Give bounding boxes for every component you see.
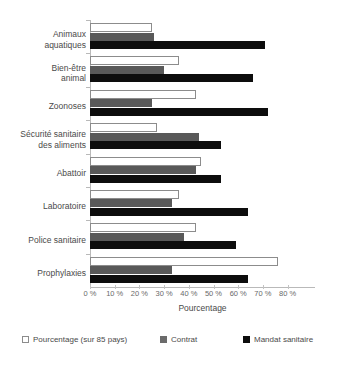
category-tick-mark <box>86 220 90 221</box>
x-axis-tick-labels: 0 %10 %20 %30 %40 %50 %60 %70 %80 % <box>90 289 337 303</box>
category-label: Zoonoses <box>0 101 86 112</box>
category-tick-mark <box>86 53 90 54</box>
legend-item: Contrat <box>160 335 197 344</box>
bar-white <box>90 257 278 266</box>
legend-swatch-gray-icon <box>160 336 167 343</box>
legend-item: Mandat sanitaire <box>243 335 313 344</box>
legend-item: Pourcentage (sur 85 pays) <box>22 335 127 344</box>
bar-gray <box>90 233 184 241</box>
bar-black <box>90 74 253 82</box>
bar-white <box>90 157 201 166</box>
x-axis-tick-label: 70 % <box>254 289 271 298</box>
bar-gray <box>90 33 154 41</box>
plot-area <box>90 20 337 287</box>
legend-label: Mandat sanitaire <box>254 335 313 344</box>
x-axis-tick-label: 50 % <box>205 289 222 298</box>
bar-white <box>90 56 179 65</box>
bar-gray <box>90 99 152 107</box>
bar-stack <box>90 123 337 150</box>
category-label: Prophylaxies <box>0 268 86 279</box>
category-label-line: Zoonoses <box>0 101 86 112</box>
category-label-line: Sécurité sanitaire <box>0 129 86 140</box>
category-label-line: aquatiques <box>0 40 86 51</box>
x-axis-tick-label: 30 % <box>156 289 173 298</box>
x-axis-tick-label: 10 % <box>106 289 123 298</box>
bar-stack <box>90 223 337 250</box>
bar-stack <box>90 157 337 184</box>
bar-group <box>90 220 337 253</box>
bar-group <box>90 120 337 153</box>
category-tick-mark <box>86 120 90 121</box>
bar-gray <box>90 199 172 207</box>
category-tick-mark <box>86 187 90 188</box>
bar-gray <box>90 133 199 141</box>
category-label-line: des aliments <box>0 140 86 151</box>
category-label: Animauxaquatiques <box>0 29 86 50</box>
bar-white <box>90 23 152 32</box>
bar-group <box>90 254 337 287</box>
legend-label: Contrat <box>171 335 197 344</box>
x-axis-tick-label: 20 % <box>131 289 148 298</box>
category-label-line: Laboratoire <box>0 201 86 212</box>
bar-group <box>90 154 337 187</box>
bar-stack <box>90 90 337 117</box>
bar-stack <box>90 190 337 217</box>
category-label-line: animal <box>0 73 86 84</box>
category-label: Bien-êtreanimal <box>0 63 86 84</box>
bar-stack <box>90 257 337 284</box>
bar-gray <box>90 66 164 74</box>
legend-swatch-white-icon <box>22 336 29 343</box>
bar-chart-figure: AnimauxaquatiquesBien-êtreanimalZoonoses… <box>0 0 342 365</box>
bar-white <box>90 90 196 99</box>
bar-stack <box>90 23 337 50</box>
x-axis-tick-label: 0 % <box>84 289 97 298</box>
bar-black <box>90 175 221 183</box>
category-label: Laboratoire <box>0 201 86 212</box>
bar-black <box>90 108 268 116</box>
bar-gray <box>90 166 196 174</box>
bar-gray <box>90 266 172 274</box>
x-axis-line <box>90 287 315 288</box>
bar-white <box>90 190 179 199</box>
bar-rows <box>90 20 337 287</box>
category-label-line: Prophylaxies <box>0 268 86 279</box>
bar-group <box>90 87 337 120</box>
x-axis-title: Pourcentage <box>90 303 315 313</box>
legend-label: Pourcentage (sur 85 pays) <box>33 335 127 344</box>
bar-black <box>90 241 236 249</box>
category-label: Abattoir <box>0 168 86 179</box>
category-axis-labels: AnimauxaquatiquesBien-êtreanimalZoonoses… <box>0 20 86 287</box>
category-label: Police sanitaire <box>0 235 86 246</box>
category-label: Sécurité sanitairedes aliments <box>0 129 86 150</box>
legend-swatch-black-icon <box>243 336 250 343</box>
chart-legend: Pourcentage (sur 85 pays)ContratMandat s… <box>0 335 342 355</box>
bar-black <box>90 275 248 283</box>
bar-white <box>90 123 157 132</box>
category-tick-mark <box>86 87 90 88</box>
category-tick-mark <box>86 254 90 255</box>
x-axis-tick-label: 60 % <box>230 289 247 298</box>
bar-group <box>90 20 337 53</box>
category-tick-mark <box>86 154 90 155</box>
category-tick-mark <box>86 20 90 21</box>
bar-black <box>90 41 265 49</box>
bar-black <box>90 208 248 216</box>
x-axis-tick-label: 40 % <box>180 289 197 298</box>
bar-black <box>90 141 221 149</box>
category-label-line: Police sanitaire <box>0 235 86 246</box>
bar-white <box>90 223 196 232</box>
bar-group <box>90 187 337 220</box>
category-label-line: Animaux <box>0 29 86 40</box>
bar-group <box>90 53 337 86</box>
bar-stack <box>90 56 337 83</box>
category-label-line: Bien-être <box>0 63 86 74</box>
x-axis-tick-label: 80 % <box>279 289 296 298</box>
category-label-line: Abattoir <box>0 168 86 179</box>
